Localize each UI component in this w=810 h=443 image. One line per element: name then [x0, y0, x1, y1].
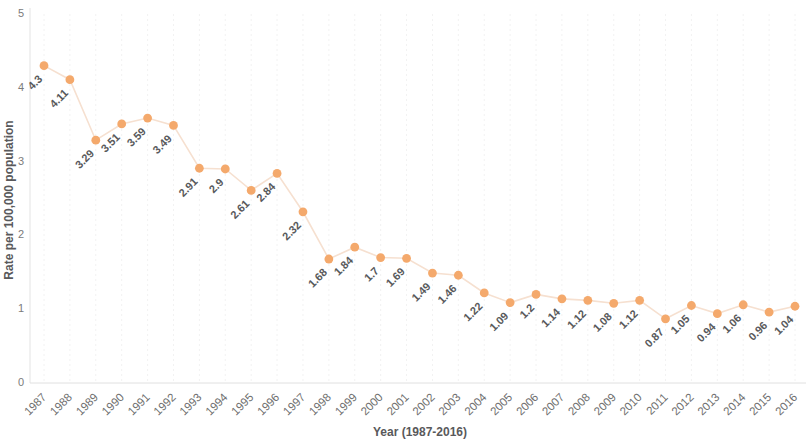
- y-tick-label: 5: [18, 7, 24, 19]
- x-tick-label: 2006: [514, 391, 541, 418]
- data-point-label: 1.22: [461, 300, 485, 324]
- data-point-label: 1.2: [517, 301, 536, 320]
- x-tick-label: 1996: [255, 391, 282, 418]
- x-tick-label: 1991: [125, 391, 152, 418]
- x-tick-label: 2005: [488, 391, 515, 418]
- data-point-label: 1.12: [616, 307, 640, 331]
- data-point-marker: [661, 314, 670, 323]
- y-tick-label: 1: [18, 302, 24, 314]
- x-tick-label: 2014: [721, 391, 748, 418]
- data-point-label: 0.94: [694, 320, 718, 344]
- data-point-label: 2.61: [228, 197, 252, 221]
- x-tick-label: 1993: [177, 391, 204, 418]
- data-point-label: 1.84: [332, 254, 356, 278]
- data-point-marker: [91, 136, 100, 145]
- data-point-label: 3.59: [124, 125, 148, 149]
- x-tick-label: 1998: [307, 391, 334, 418]
- data-point-label: 3.51: [98, 131, 122, 155]
- data-point-marker: [221, 165, 230, 174]
- data-point-marker: [376, 253, 385, 262]
- x-tick-label: 1992: [151, 391, 178, 418]
- y-tick-label: 0: [18, 376, 24, 388]
- data-point-marker: [687, 301, 696, 310]
- y-tick-label: 3: [18, 155, 24, 167]
- x-tick-label: 2016: [773, 391, 800, 418]
- data-point-label: 1.49: [409, 280, 433, 304]
- data-point-label: 1.08: [591, 310, 615, 334]
- data-point-marker: [609, 299, 618, 308]
- data-point-labels: 4.34.113.293.513.593.492.912.92.612.842.…: [25, 73, 796, 350]
- x-tick-label: 1999: [333, 391, 360, 418]
- data-point-label: 1.68: [306, 266, 330, 290]
- data-point-label: 4.3: [25, 73, 44, 92]
- x-tick-label: 2008: [566, 391, 593, 418]
- data-point-marker: [583, 296, 592, 305]
- x-tick-label: 2004: [462, 391, 489, 418]
- data-point-label: 0.87: [642, 326, 666, 350]
- data-point-marker: [713, 309, 722, 318]
- data-point-label: 1.04: [772, 313, 796, 337]
- data-point-label: 1.12: [565, 307, 589, 331]
- data-point-label: 3.29: [73, 147, 97, 171]
- data-point-marker: [195, 164, 204, 173]
- data-point-marker: [169, 121, 178, 130]
- data-point-marker: [143, 114, 152, 123]
- series-line: [44, 66, 795, 319]
- data-point-marker: [532, 290, 541, 299]
- data-point-label: 4.11: [47, 87, 70, 110]
- x-tick-label: 2000: [358, 391, 385, 418]
- data-point-label: 1.14: [539, 305, 563, 329]
- y-axis-title: Rate per 100,000 population: [2, 120, 16, 279]
- x-tick-label: 2013: [695, 391, 722, 418]
- data-point-marker: [635, 296, 644, 305]
- x-tick-label: 2002: [410, 391, 437, 418]
- data-point-marker: [454, 271, 463, 280]
- data-point-marker: [247, 186, 256, 195]
- x-axis-title: Year (1987-2016): [373, 425, 467, 439]
- x-tick-label: 2001: [384, 391, 411, 418]
- data-point-marker: [558, 294, 567, 303]
- line-chart: 012345 4.34.113.293.513.593.492.912.92.6…: [0, 0, 810, 443]
- data-point-marker: [765, 308, 774, 317]
- x-tick-label: 1989: [74, 391, 101, 418]
- data-point-marker: [739, 300, 748, 309]
- data-point-marker: [65, 75, 74, 84]
- data-point-label: 0.96: [746, 319, 770, 343]
- x-tick-label: 1997: [281, 391, 308, 418]
- y-tick-label: 2: [18, 228, 24, 240]
- axis-lines: [30, 8, 806, 383]
- x-tick-label: 2011: [644, 391, 670, 417]
- x-axis-tick-labels: 1987198819891990199119921993199419951996…: [22, 391, 800, 418]
- data-point-label: 1.7: [362, 264, 381, 283]
- data-point-marker: [117, 120, 126, 129]
- data-point-label: 2.9: [206, 176, 225, 195]
- data-point-marker: [402, 254, 411, 263]
- data-point-marker: [350, 243, 359, 252]
- data-point-marker: [428, 269, 437, 278]
- data-point-marker: [299, 207, 308, 216]
- data-point-marker: [791, 302, 800, 311]
- x-tick-label: 2010: [617, 391, 644, 418]
- data-point-marker: [506, 298, 515, 307]
- data-point-label: 1.06: [720, 312, 744, 336]
- x-tick-label: 2009: [592, 391, 619, 418]
- data-point-label: 2.91: [176, 175, 200, 199]
- data-point-marker: [40, 61, 49, 70]
- data-point-label: 3.49: [150, 132, 174, 156]
- x-tick-label: 1990: [100, 391, 127, 418]
- x-tick-label: 1994: [203, 391, 230, 418]
- data-point-label: 2.32: [280, 219, 304, 243]
- data-point-marker: [324, 255, 333, 264]
- data-point-marker: [273, 169, 282, 178]
- x-tick-label: 2007: [540, 391, 567, 418]
- x-tick-label: 2003: [436, 391, 463, 418]
- chart-canvas: 012345 4.34.113.293.513.593.492.912.92.6…: [0, 0, 810, 443]
- x-tick-label: 1995: [229, 391, 256, 418]
- x-tick-label: 2015: [747, 391, 774, 418]
- x-tick-label: 1988: [48, 391, 75, 418]
- data-point-label: 1.69: [383, 265, 407, 289]
- data-point-label: 2.84: [254, 180, 278, 204]
- data-point-marker: [480, 289, 489, 298]
- x-tick-label: 1987: [22, 391, 49, 418]
- data-point-label: 1.09: [487, 309, 511, 333]
